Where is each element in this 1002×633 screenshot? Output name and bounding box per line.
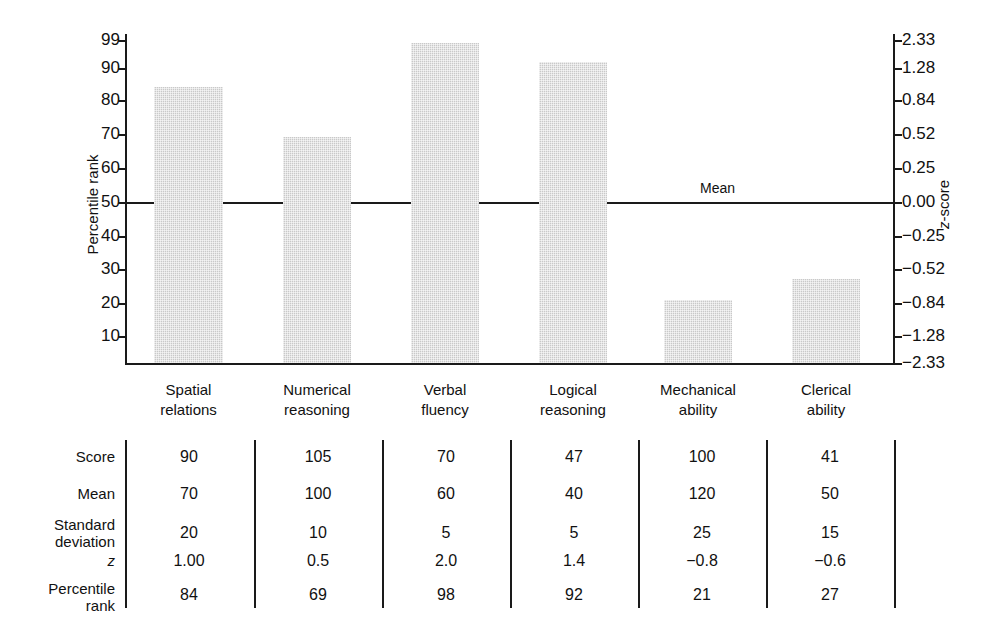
table-cell-r1-c1: 100 bbox=[254, 485, 382, 503]
bar-2 bbox=[411, 43, 479, 363]
left-tick-mark-50 bbox=[118, 202, 126, 204]
table-cell-r3-c0: 1.00 bbox=[125, 552, 253, 570]
bar-5 bbox=[792, 279, 860, 363]
left-tick-label-90: 90 bbox=[0, 59, 120, 76]
table-row-label-line: Mean bbox=[0, 485, 115, 502]
left-tick-label-60: 60 bbox=[0, 159, 120, 176]
right-axis-line bbox=[893, 34, 895, 365]
table-row-label-4: Percentilerank bbox=[0, 580, 115, 615]
left-tick-mark-30 bbox=[118, 269, 126, 271]
bar-3 bbox=[539, 62, 607, 363]
category-label-5: Clericalability bbox=[751, 380, 901, 421]
table-cell-r4-c1: 69 bbox=[254, 586, 382, 604]
left-tick-label-50: 50 bbox=[0, 193, 120, 210]
table-cell-r0-c0: 90 bbox=[125, 448, 253, 466]
bar-4 bbox=[664, 300, 732, 363]
right-tick-mark-8 bbox=[893, 303, 902, 305]
chart-page: Mean Percentile rank z-score 99908070605… bbox=[0, 0, 1002, 633]
right-tick-label-2: 0.84 bbox=[902, 91, 935, 108]
table-cell-r4-c3: 92 bbox=[510, 586, 638, 604]
table-row-label-line: Score bbox=[0, 448, 115, 465]
right-tick-label-6: −0.25 bbox=[902, 227, 945, 244]
right-tick-mark-3 bbox=[893, 134, 902, 136]
table-row-label-0: Score bbox=[0, 448, 115, 465]
table-cell-r0-c2: 70 bbox=[382, 448, 510, 466]
table-cell-r0-c3: 47 bbox=[510, 448, 638, 466]
left-tick-mark-40 bbox=[118, 236, 126, 238]
left-tick-label-99: 99 bbox=[0, 31, 120, 48]
table-cell-r0-c5: 41 bbox=[766, 448, 894, 466]
right-tick-mark-4 bbox=[893, 168, 902, 170]
right-tick-mark-5 bbox=[893, 202, 902, 204]
mean-line-label: Mean bbox=[700, 180, 735, 196]
category-label-line: Clerical bbox=[751, 380, 901, 400]
table-cell-r4-c2: 98 bbox=[382, 586, 510, 604]
mean-reference-line bbox=[125, 202, 895, 204]
table-cell-r3-c2: 2.0 bbox=[382, 552, 510, 570]
table-row-label-3: z bbox=[0, 552, 115, 569]
table-cell-r2-c2: 5 bbox=[382, 524, 510, 542]
right-tick-label-9: −1.28 bbox=[902, 327, 945, 344]
left-tick-label-10: 10 bbox=[0, 327, 120, 344]
left-tick-mark-80 bbox=[118, 100, 126, 102]
category-label-line: Spatial bbox=[114, 380, 264, 400]
table-row-label-line: deviation bbox=[0, 533, 115, 550]
left-tick-mark-60 bbox=[118, 168, 126, 170]
right-tick-mark-0 bbox=[893, 40, 902, 42]
left-tick-label-70: 70 bbox=[0, 125, 120, 142]
left-tick-mark-10 bbox=[118, 336, 126, 338]
table-cell-r1-c2: 60 bbox=[382, 485, 510, 503]
right-tick-mark-6 bbox=[893, 236, 902, 238]
left-tick-mark-90 bbox=[118, 68, 126, 70]
table-cell-r2-c5: 15 bbox=[766, 524, 894, 542]
left-tick-label-30: 30 bbox=[0, 260, 120, 277]
data-table: ScoreMeanStandarddeviationzPercentileran… bbox=[0, 440, 1002, 615]
right-tick-mark-9 bbox=[893, 336, 902, 338]
table-cell-r1-c0: 70 bbox=[125, 485, 253, 503]
table-row-label-line: Percentile bbox=[0, 580, 115, 597]
table-cell-r4-c5: 27 bbox=[766, 586, 894, 604]
table-cell-r4-c0: 84 bbox=[125, 586, 253, 604]
table-cell-r2-c4: 25 bbox=[638, 524, 766, 542]
left-tick-mark-99 bbox=[118, 40, 126, 42]
bar-1 bbox=[283, 137, 351, 363]
table-cell-r1-c4: 120 bbox=[638, 485, 766, 503]
right-tick-mark-10 bbox=[893, 363, 902, 365]
table-cell-r4-c4: 21 bbox=[638, 586, 766, 604]
table-cell-r3-c5: −0.6 bbox=[766, 552, 894, 570]
category-label-0: Spatialrelations bbox=[114, 380, 264, 421]
right-tick-label-0: 2.33 bbox=[902, 31, 935, 48]
bar-0 bbox=[154, 87, 223, 363]
table-cell-r0-c1: 105 bbox=[254, 448, 382, 466]
table-cell-r2-c3: 5 bbox=[510, 524, 638, 542]
right-tick-label-7: −0.52 bbox=[902, 260, 945, 277]
left-tick-label-80: 80 bbox=[0, 91, 120, 108]
table-cell-r2-c1: 10 bbox=[254, 524, 382, 542]
table-row-label-2: Standarddeviation bbox=[0, 516, 115, 551]
right-tick-mark-1 bbox=[893, 68, 902, 70]
category-label-line: relations bbox=[114, 400, 264, 420]
table-cell-r3-c4: −0.8 bbox=[638, 552, 766, 570]
table-cell-r0-c4: 100 bbox=[638, 448, 766, 466]
table-row-label-1: Mean bbox=[0, 485, 115, 502]
left-tick-label-20: 20 bbox=[0, 294, 120, 311]
bottom-axis-line bbox=[125, 363, 895, 365]
right-tick-label-4: 0.25 bbox=[902, 159, 935, 176]
table-cell-r3-c1: 0.5 bbox=[254, 552, 382, 570]
left-axis-line bbox=[125, 34, 127, 365]
table-row-label-line: Standard bbox=[0, 516, 115, 533]
right-tick-mark-2 bbox=[893, 100, 902, 102]
category-label-line: ability bbox=[751, 400, 901, 420]
right-tick-label-8: −0.84 bbox=[902, 294, 945, 311]
right-tick-label-5: 0.00 bbox=[902, 193, 935, 210]
right-tick-label-10: −2.33 bbox=[902, 354, 945, 371]
right-tick-mark-7 bbox=[893, 269, 902, 271]
table-row-label-line: rank bbox=[0, 597, 115, 614]
right-axis-title: z-score bbox=[935, 130, 952, 280]
left-tick-label-40: 40 bbox=[0, 227, 120, 244]
left-tick-mark-20 bbox=[118, 303, 126, 305]
table-cell-r2-c0: 20 bbox=[125, 524, 253, 542]
table-cell-r1-c3: 40 bbox=[510, 485, 638, 503]
table-cell-r1-c5: 50 bbox=[766, 485, 894, 503]
table-row-label-line: z bbox=[0, 552, 115, 569]
